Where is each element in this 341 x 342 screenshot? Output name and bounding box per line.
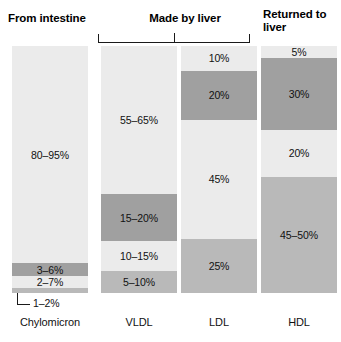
bar-segment: 45% bbox=[181, 120, 257, 239]
bar-segment: 5% bbox=[261, 46, 337, 58]
bar-segment-label: 25% bbox=[209, 260, 230, 272]
bar-segment-label: 3–6% bbox=[37, 264, 63, 276]
bar-segment-label: 55–65% bbox=[120, 114, 158, 126]
bar-segment-label: 10% bbox=[209, 52, 230, 64]
stack-ldl: 10%20%45%25% bbox=[181, 46, 257, 293]
bar-segment-label: 20% bbox=[209, 89, 230, 101]
lipoprotein-composition-chart: From intestine Made by liver Returned to… bbox=[0, 0, 341, 342]
bar-segment: 30% bbox=[261, 58, 337, 130]
bar-segment-label: 45–50% bbox=[280, 229, 318, 241]
bar-segment: 20% bbox=[181, 71, 257, 120]
category-label-chylomicron: Chylomicron bbox=[12, 316, 88, 329]
bar-segment: 3–6% bbox=[12, 263, 88, 275]
bar-segment: 5–10% bbox=[101, 271, 177, 293]
bar-segment-label: 45% bbox=[209, 173, 230, 185]
bar-segment-label: 20% bbox=[289, 147, 310, 159]
bar-segment: 2–7% bbox=[12, 276, 88, 288]
bar-column-ldl: 10%20%45%25% bbox=[181, 46, 257, 293]
category-label-vldl: VLDL bbox=[101, 316, 177, 329]
bar-segment: 10–15% bbox=[101, 241, 177, 271]
bar-segment: 10% bbox=[181, 46, 257, 71]
bracket-left-tick bbox=[98, 34, 99, 43]
bar-segment: 55–65% bbox=[101, 46, 177, 194]
bar-column-vldl: 55–65%15–20%10–15%5–10% bbox=[101, 46, 177, 293]
bracket-stem bbox=[174, 33, 175, 42]
bar-segment: 45–50% bbox=[261, 177, 337, 293]
made-by-liver-bracket bbox=[98, 33, 250, 44]
bar-segment-label: 80–95% bbox=[31, 149, 69, 161]
bracket-right-tick bbox=[249, 34, 250, 43]
category-label-ldl: LDL bbox=[181, 316, 257, 329]
bar-column-hdl: 5%30%20%45–50% bbox=[261, 46, 337, 293]
bar-column-chylomicron: 80–95%3–6%2–7% bbox=[12, 46, 88, 293]
group-header-returned-to-liver: Returned to liver bbox=[263, 8, 339, 34]
bar-segment-label: 10–15% bbox=[120, 250, 158, 262]
bar-segment: 25% bbox=[181, 239, 257, 293]
stack-vldl: 55–65%15–20%10–15%5–10% bbox=[101, 46, 177, 293]
group-header-from-intestine: From intestine bbox=[8, 12, 118, 25]
bar-segment-label: 2–7% bbox=[37, 276, 63, 288]
bar-segment-label: 5–10% bbox=[123, 276, 155, 288]
bar-segment: 20% bbox=[261, 130, 337, 177]
bracket-horizontal-rule bbox=[98, 42, 250, 43]
bar-segment: 80–95% bbox=[12, 46, 88, 263]
callout-chylomicron-smallest-segment: 1–2% bbox=[17, 293, 127, 313]
bar-segment-label: 15–20% bbox=[120, 212, 158, 224]
stack-hdl: 5%30%20%45–50% bbox=[261, 46, 337, 293]
bar-segment-label: 30% bbox=[289, 88, 310, 100]
bar-segment: 15–20% bbox=[101, 194, 177, 241]
stack-chylomicron: 80–95%3–6%2–7% bbox=[12, 46, 88, 293]
callout-label: 1–2% bbox=[33, 297, 59, 309]
group-header-made-by-liver: Made by liver bbox=[120, 12, 250, 25]
category-label-hdl: HDL bbox=[261, 316, 337, 329]
callout-leader-horizontal bbox=[17, 304, 30, 305]
bar-segment-label: 5% bbox=[292, 46, 307, 58]
